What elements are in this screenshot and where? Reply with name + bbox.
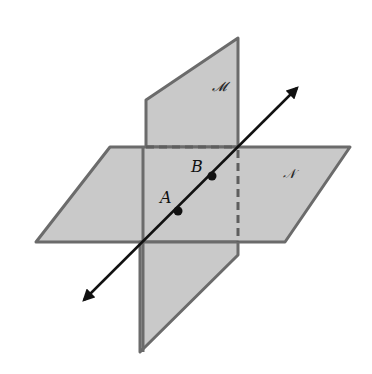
point-b-label: B (190, 157, 203, 176)
point-a-label: A (158, 188, 172, 207)
plane-m-lower (140, 242, 238, 352)
point-a (174, 207, 183, 216)
point-b (208, 172, 217, 181)
intersecting-planes-diagram: A B 𝓜 𝒩 (0, 0, 372, 374)
